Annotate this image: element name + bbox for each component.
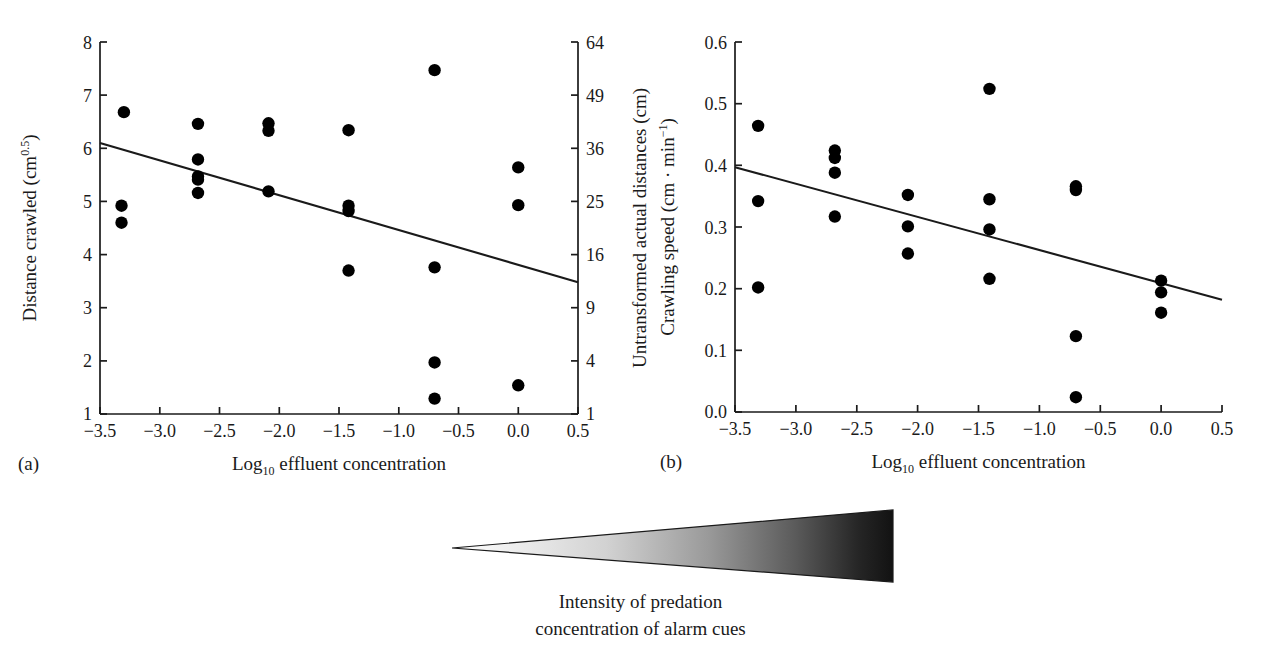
data-point	[983, 223, 995, 235]
data-point	[192, 187, 204, 199]
panel-a-x-tick-labels: −3.5 −3.0 −2.5 −2.0 −1.5 −1.0 −0.5 0.0 0…	[84, 421, 590, 441]
data-point	[1155, 286, 1167, 298]
panel-a-x-ticks	[100, 407, 578, 414]
tick-label: −3.0	[780, 419, 813, 439]
tick-label: −1.5	[323, 421, 356, 441]
panel-b-y-tick-labels: 0.6 0.5 0.4 0.3 0.2 0.1 0.0	[705, 33, 728, 422]
tick-label: −3.5	[84, 421, 117, 441]
tick-label: 0.0	[507, 421, 530, 441]
data-point	[752, 195, 764, 207]
tick-label: 3	[83, 298, 92, 318]
data-point	[342, 124, 354, 136]
tick-label: 0.4	[705, 156, 728, 176]
data-point	[115, 199, 127, 211]
tick-label: −2.5	[840, 419, 873, 439]
data-point	[512, 161, 524, 173]
tick-label: 0.1	[705, 341, 728, 361]
wedge-caption-line-2: concentration of alarm cues	[0, 615, 1281, 642]
panel-a: 8 7 6 5 4 3 2 1 64 4	[0, 0, 660, 490]
data-point	[118, 106, 130, 118]
panel-b-axes	[735, 42, 1222, 412]
tick-label: 64	[586, 33, 604, 53]
data-point	[192, 153, 204, 165]
data-point	[902, 220, 914, 232]
data-point	[829, 210, 841, 222]
tick-label: −2.0	[263, 421, 296, 441]
tick-label: 0.6	[705, 33, 728, 53]
panel-a-left-axis-title: Distance crawled (cm0.5)	[18, 135, 41, 322]
panel-b-y-axis-title: Crawling speed (cm · min−1)	[656, 118, 679, 336]
tick-label: 6	[83, 139, 92, 159]
tick-label: 8	[83, 33, 92, 53]
data-point	[262, 185, 274, 197]
panel-a-svg: 8 7 6 5 4 3 2 1 64 4	[0, 0, 660, 490]
tick-label: −0.5	[442, 421, 475, 441]
panel-b-x-ticks	[735, 405, 1222, 412]
data-point	[342, 205, 354, 217]
tick-label: 4	[586, 351, 595, 371]
panel-b-regression-line	[735, 167, 1222, 300]
tick-label: −0.5	[1084, 419, 1117, 439]
panel-a-x-axis-title: Log10 effluent concentration	[232, 453, 447, 478]
panel-b-data-points	[752, 83, 1167, 404]
panel-b-svg: 0.6 0.5 0.4 0.3 0.2 0.1 0.0	[640, 0, 1281, 490]
intensity-wedge	[0, 495, 1281, 590]
tick-label: −1.0	[382, 421, 415, 441]
data-point	[428, 356, 440, 368]
data-point	[192, 173, 204, 185]
data-point	[512, 379, 524, 391]
tick-label: 25	[586, 192, 604, 212]
tick-label: −2.0	[901, 419, 934, 439]
data-point	[829, 152, 841, 164]
panel-b-y-ticks	[735, 42, 742, 412]
data-point	[902, 247, 914, 259]
data-point	[115, 216, 127, 228]
data-point	[512, 199, 524, 211]
wedge-caption: Intensity of predation concentration of …	[0, 588, 1281, 642]
data-point	[1070, 330, 1082, 342]
data-point	[1155, 307, 1167, 319]
panel-a-letter: (a)	[18, 453, 39, 475]
data-point	[262, 125, 274, 137]
panel-a-axes	[100, 42, 578, 414]
data-point	[1155, 274, 1167, 286]
figure-root: 8 7 6 5 4 3 2 1 64 4	[0, 0, 1281, 655]
tick-label: 49	[586, 86, 604, 106]
tick-label: −2.5	[203, 421, 236, 441]
tick-label: 0.0	[1150, 419, 1173, 439]
tick-label: −3.0	[143, 421, 176, 441]
tick-label: 16	[586, 245, 604, 265]
data-point	[428, 392, 440, 404]
panel-b-letter: (b)	[660, 451, 682, 473]
wedge-triangle	[452, 510, 893, 582]
tick-label: 0.2	[705, 279, 728, 299]
tick-label: 5	[83, 192, 92, 212]
tick-label: 0.5	[1211, 419, 1234, 439]
data-point	[983, 193, 995, 205]
data-point	[428, 64, 440, 76]
tick-label: 0.3	[705, 218, 728, 238]
tick-label: 0.5	[567, 421, 590, 441]
wedge-caption-line-1: Intensity of predation	[0, 588, 1281, 615]
tick-label: 7	[83, 86, 92, 106]
data-point	[829, 167, 841, 179]
panel-a-right-ticks	[571, 42, 578, 414]
data-point	[428, 261, 440, 273]
panel-a-data-points	[115, 64, 524, 405]
tick-label: 0.5	[705, 94, 728, 114]
panel-a-regression-line	[100, 143, 578, 282]
panel-a-left-ticks	[100, 42, 107, 414]
tick-label: −1.5	[962, 419, 995, 439]
data-point	[983, 273, 995, 285]
panel-a-left-tick-labels: 8 7 6 5 4 3 2 1	[83, 33, 92, 424]
data-point	[902, 189, 914, 201]
panel-a-right-tick-labels: 64 49 36 25 16 9 4 1	[586, 33, 604, 424]
tick-label: −3.5	[719, 419, 752, 439]
tick-label: −1.0	[1023, 419, 1056, 439]
data-point	[752, 281, 764, 293]
data-point	[192, 118, 204, 130]
panel-b-x-tick-labels: −3.5 −3.0 −2.5 −2.0 −1.5 −1.0 −0.5 0.0 0…	[719, 419, 1234, 439]
data-point	[342, 264, 354, 276]
tick-label: 36	[586, 139, 604, 159]
panel-b: 0.6 0.5 0.4 0.3 0.2 0.1 0.0	[640, 0, 1281, 490]
